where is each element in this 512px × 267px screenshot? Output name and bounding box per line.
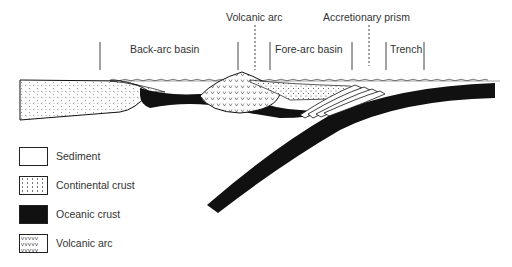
zone-label-fore-arc-basin: Fore-arc basin [275,43,343,55]
legend-item-oceanic-crust: Oceanic crust [19,205,120,223]
subduction-diagram [0,0,512,267]
zone-label-accretionary-prism: Accretionary prism [323,11,410,23]
legend-item-continental-crust: Continental crust [19,176,135,194]
zone-label-trench: Trench [390,43,422,55]
oceanic-crust-swatch-icon [19,205,48,224]
volcanic-arc-swatch-icon: vvvvvvvvvvvvvvv [19,234,48,253]
sea-surface [110,79,488,81]
sediment-swatch-icon [19,147,48,166]
continental-crust [20,80,150,120]
volcanic-arc [200,72,280,113]
continental-crust-swatch-icon [19,176,48,195]
zone-label-back-arc-basin: Back-arc basin [130,43,199,55]
legend-item-volcanic-arc: vvvvvvvvvvvvvvv Volcanic arc [19,234,113,252]
zone-label-volcanic-arc: Volcanic arc [226,11,283,23]
legend-item-sediment: Sediment [19,147,100,165]
